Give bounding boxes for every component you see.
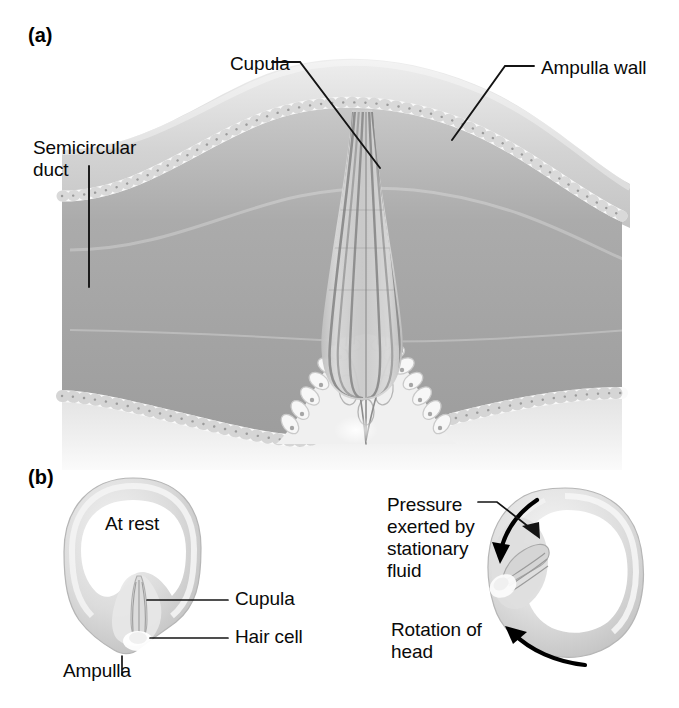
panel-a-illustration bbox=[62, 59, 630, 470]
panel-b-left-illustration bbox=[64, 478, 228, 675]
label-ampulla-wall-panel-a: Ampulla wall bbox=[541, 57, 646, 79]
panel-b-right-illustration bbox=[478, 488, 643, 665]
panel-label-a: (a) bbox=[28, 24, 52, 47]
label-semicircular-duct-panel-a: Semicircular duct bbox=[33, 137, 136, 181]
panel-label-b: (b) bbox=[28, 466, 54, 489]
anatomy-illustration-svg bbox=[0, 0, 679, 708]
label-cupula-panel-b: Cupula bbox=[235, 588, 295, 610]
figure-root: (a) (b) Cupula Ampulla wall Semicircular… bbox=[0, 0, 679, 708]
label-pressure-stationary-fluid: Pressure exerted by stationary fluid bbox=[387, 494, 475, 582]
label-rotation-of-head: Rotation of head bbox=[391, 619, 482, 663]
label-hair-cell-panel-b: Hair cell bbox=[235, 626, 303, 648]
label-ampulla-panel-b: Ampulla bbox=[63, 660, 131, 682]
label-at-rest: At rest bbox=[105, 513, 159, 535]
label-cupula-panel-a: Cupula bbox=[230, 53, 290, 75]
